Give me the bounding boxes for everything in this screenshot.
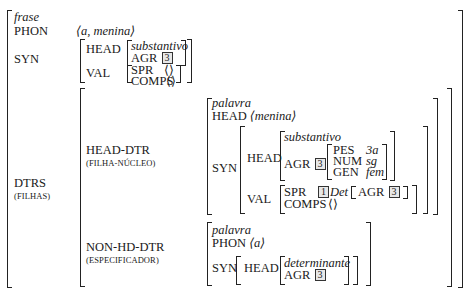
syn-val-label: VAL — [86, 67, 110, 80]
head-dtr-phon-value: ⟨menina⟩ — [250, 109, 297, 123]
head-dtr-comps-value: ⟨⟩ — [328, 198, 338, 211]
head-dtr-label: HEAD-DTR — [86, 144, 150, 157]
head-dtr-val-bracket-right — [412, 185, 417, 214]
dtrs-gloss: (FILHAS) — [14, 190, 50, 203]
phon-value: ⟨a, menina⟩ — [76, 25, 135, 38]
head-dtr-gloss: (FILHA-NÚCLEO) — [86, 157, 155, 170]
dtrs-bracket-right — [447, 88, 452, 287]
syn-head-label: HEAD — [86, 43, 121, 56]
head-dtr-syn-label: SYN — [212, 162, 237, 175]
syn-bracket-left — [80, 39, 85, 83]
non-hd-dtr-label: NON-HD-DTR — [86, 241, 164, 254]
head-dtr-syn-bracket-right — [423, 126, 428, 214]
gen-label: GEN — [333, 166, 359, 179]
avm-type: frase — [14, 11, 39, 24]
outer-bracket-left — [7, 10, 12, 288]
syn-label: SYN — [14, 53, 39, 66]
non-hd-dtr-gloss: (ESPECIFICADOR) — [86, 254, 159, 267]
head-dtr-agr-label: AGR — [284, 157, 310, 171]
non-hd-dtr-bracket-right — [366, 222, 371, 286]
non-hd-dtr-syn-bracket-left — [236, 256, 241, 285]
head-dtr-bracket-right — [433, 98, 438, 215]
syn-val-bracket-right — [176, 65, 181, 83]
gen-value: fem — [366, 166, 384, 179]
non-hd-dtr-syn-label: SYN — [212, 262, 237, 275]
spr-agr: AGR 3 — [358, 186, 401, 199]
non-hd-dtr-phon-value: ⟨a⟩ — [249, 236, 265, 250]
non-hd-dtr-phon: PHON ⟨a⟩ — [212, 237, 265, 250]
agr-features-bracket-left — [327, 144, 332, 180]
non-hd-dtr-head-label: HEAD — [244, 262, 279, 275]
head-dtr-agr-tag: 3 — [315, 158, 326, 170]
head-dtr-syn-bracket-left — [240, 126, 245, 214]
phon-label: PHON — [14, 25, 48, 38]
head-dtr-head-label: HEAD — [212, 109, 247, 123]
non-hd-dtr-phon-label: PHON — [212, 236, 246, 250]
spr-agr-label: AGR — [358, 185, 384, 199]
head-dtr-head: HEAD ⟨menina⟩ — [212, 110, 296, 123]
non-hd-dtr-agr: AGR 3 — [284, 269, 327, 282]
head-dtr-syn-head-label: HEAD — [247, 152, 282, 165]
spr-agr-bracket-right — [403, 186, 408, 199]
syn-comps-value: ⟨⟩ — [166, 75, 176, 88]
dtrs-bracket-left — [80, 88, 85, 287]
dtrs-label: DTRS — [14, 177, 46, 190]
outer-bracket-right — [458, 10, 463, 288]
non-hd-dtr-agr-tag: 3 — [315, 269, 326, 281]
head-dtr-agr: AGR 3 — [284, 158, 327, 171]
spr-agr-tag: 3 — [389, 186, 400, 198]
non-hd-dtr-agr-label: AGR — [284, 268, 310, 282]
head-dtr-val-label: VAL — [247, 193, 271, 206]
head-dtr-syn-head-bracket-right — [390, 131, 395, 181]
non-hd-dtr-syn-bracket-right — [353, 256, 358, 285]
spr-agr-bracket-left — [351, 186, 356, 199]
head-dtr-comps-label: COMPS — [284, 198, 326, 211]
